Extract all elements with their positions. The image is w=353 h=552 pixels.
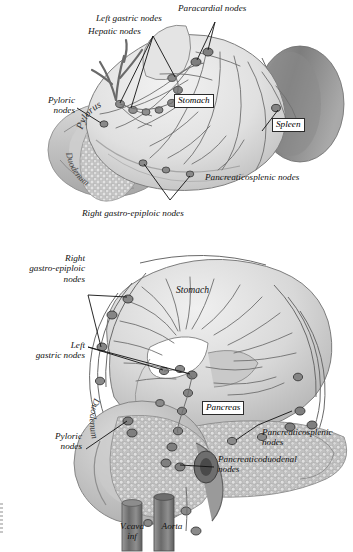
- page-edge-artifact: [0, 503, 3, 533]
- figure-bottom-posterior-view: Right gastro-epiploic nodes Left gastric…: [0, 235, 353, 552]
- figure-top-anterior-view: Left gastric nodes Paracardial nodes Hep…: [0, 0, 353, 240]
- svg-text:Duodenum: Duodenum: [64, 150, 92, 187]
- svg-text:Pylorus: Pylorus: [73, 98, 102, 131]
- svg-text:Duodenum: Duodenum: [88, 396, 104, 440]
- curved-organ-labels-top: Pylorus Duodenum: [0, 0, 353, 240]
- label-duodenum-curved-bottom: Duodenum: [88, 396, 104, 440]
- label-pylorus-curved: Pylorus: [73, 98, 102, 131]
- label-duodenum-curved-top: Duodenum: [64, 150, 92, 187]
- curved-organ-labels-bottom: Duodenum: [0, 235, 353, 552]
